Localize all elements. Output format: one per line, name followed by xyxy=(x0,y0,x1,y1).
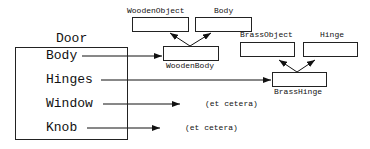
knob-etcetera: (et cetera) xyxy=(185,123,238,132)
field-window: Window xyxy=(46,96,93,111)
field-knob: Knob xyxy=(46,120,77,135)
woodenbody-to-woodenobject-arrow xyxy=(170,33,190,46)
brassobject-box xyxy=(240,42,295,57)
woodenbody-to-body-arrow xyxy=(190,33,211,46)
brasshinge-to-hinge-arrow xyxy=(297,60,315,72)
brasshinge-box xyxy=(272,72,327,87)
hinge-class-box xyxy=(303,42,358,57)
woodenbody-label: WoodenBody xyxy=(166,61,214,70)
woodenobject-label: WoodenObject xyxy=(127,6,185,15)
woodenbody-box xyxy=(163,46,219,61)
brasshinge-to-brassobject-arrow xyxy=(279,60,297,72)
body-class-label: Body xyxy=(214,6,233,15)
brassobject-label: BrassObject xyxy=(240,30,293,39)
woodenobject-box xyxy=(132,17,189,32)
window-etcetera: (et cetera) xyxy=(205,99,258,108)
door-title: Door xyxy=(56,31,87,46)
brasshinge-label: BrassHinge xyxy=(274,87,322,96)
field-body: Body xyxy=(46,48,77,63)
field-hinges: Hinges xyxy=(46,72,93,87)
hinge-class-label: Hinge xyxy=(320,30,344,39)
